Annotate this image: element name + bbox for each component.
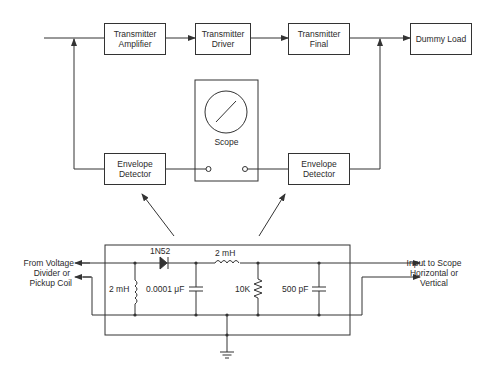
- series-inductor-label: 2 mH: [215, 248, 235, 258]
- scope-box: [195, 80, 258, 181]
- scope-label: Scope: [195, 137, 258, 147]
- diagram-canvas: [0, 0, 496, 374]
- scope-terminal-right: [243, 167, 248, 172]
- block-label: Dummy Load: [416, 34, 467, 45]
- input-label-line: From Voltage: [8, 258, 74, 268]
- shunt-inductor-label: 2 mH: [109, 284, 129, 294]
- output-label-line: Input to Scope: [384, 258, 484, 268]
- output-label-line: Vertical: [384, 278, 484, 288]
- block-label: Driver: [212, 39, 235, 50]
- inductor-shunt-icon: [135, 280, 137, 304]
- resistor-label: 10K: [235, 284, 250, 294]
- envelope-detector-left: Envelope Detector: [104, 153, 166, 185]
- envelope-detector-right: Envelope Detector: [288, 153, 350, 185]
- dummy-load-block: Dummy Load: [410, 23, 472, 55]
- block-label: Envelope: [301, 159, 336, 170]
- resistor-10k-icon: [254, 279, 262, 298]
- block-label: Detector: [119, 169, 151, 180]
- input-label-line: Divider or: [8, 268, 70, 278]
- block-label: Final: [310, 39, 328, 50]
- block-label: Transmitter: [298, 29, 341, 40]
- transmitter-driver-block: Transmitter Driver: [195, 23, 251, 55]
- output-label: Input to Scope Horizontal or Vertical: [384, 258, 484, 288]
- transmitter-final-block: Transmitter Final: [288, 23, 350, 55]
- block-label: Amplifier: [118, 39, 151, 50]
- input-label: From Voltage Divider or Pickup Coil: [8, 258, 74, 288]
- inductor-series-icon: [215, 261, 239, 264]
- diode-label: 1N52: [150, 246, 170, 256]
- block-label: Transmitter: [114, 29, 157, 40]
- block-label: Detector: [303, 169, 335, 180]
- transmitter-amplifier-block: Transmitter Amplifier: [104, 23, 166, 55]
- output-label-line: Horizontal or: [384, 268, 484, 278]
- block-label: Transmitter: [202, 29, 245, 40]
- capacitor-1-label: 0.0001 μF: [146, 284, 184, 294]
- scope-terminal-left: [206, 167, 211, 172]
- diode-1n52-icon: [160, 257, 167, 269]
- capacitor-2-label: 500 pF: [282, 284, 308, 294]
- block-label: Envelope: [117, 159, 152, 170]
- input-label-line: Pickup Coil: [8, 278, 72, 288]
